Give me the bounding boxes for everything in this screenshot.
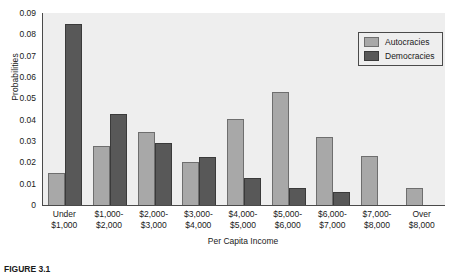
bar-dem xyxy=(199,157,216,205)
chart-legend: Autocracies Democracies xyxy=(358,32,443,66)
bar-auto xyxy=(316,137,333,205)
bar-auto xyxy=(227,119,244,205)
bar-dem xyxy=(333,192,350,205)
y-axis-tick-label: 0 xyxy=(6,201,36,209)
x-axis-tick-label: Over$8,000 xyxy=(399,209,444,231)
y-axis-tick-label: 0.04 xyxy=(6,116,36,124)
y-axis-tick-label: 0.09 xyxy=(6,9,36,17)
y-axis-tick-label: 0.08 xyxy=(6,30,36,38)
bar-auto xyxy=(361,156,378,205)
x-axis-tick-label: $6,000-$7,000 xyxy=(310,209,355,231)
y-axis-tick-label: 0.05 xyxy=(6,94,36,102)
plot-area: Autocracies Democracies xyxy=(42,13,445,206)
bar-auto xyxy=(93,146,110,205)
y-axis-tick-label: 0.06 xyxy=(6,73,36,81)
bar-auto xyxy=(48,173,65,205)
bar-dem xyxy=(110,114,127,205)
x-axis-tick-label: $1,000-$2,000 xyxy=(87,209,132,231)
bar-group xyxy=(88,13,133,205)
bar-group xyxy=(132,13,177,205)
bar-auto xyxy=(138,132,155,205)
legend-swatch-democracies xyxy=(364,51,379,61)
bar-group xyxy=(222,13,267,205)
x-axis-tick-label: $2,000-$3,000 xyxy=(131,209,176,231)
bar-auto xyxy=(272,92,289,205)
bar-group xyxy=(177,13,222,205)
bar-group xyxy=(43,13,88,205)
bar-dem xyxy=(244,178,261,205)
legend-label-autocracies: Autocracies xyxy=(385,37,429,47)
y-axis-tick-label: 0.01 xyxy=(6,180,36,188)
y-axis-tick-label: 0.02 xyxy=(6,158,36,166)
legend-swatch-autocracies xyxy=(364,37,379,47)
bar-group xyxy=(311,13,356,205)
x-axis-title: Per Capita Income xyxy=(42,236,444,246)
legend-item-autocracies: Autocracies xyxy=(364,37,435,47)
legend-label-democracies: Democracies xyxy=(385,51,435,61)
bar-group xyxy=(266,13,311,205)
x-axis-tick-label: $7,000-$8,000 xyxy=(355,209,400,231)
bar-auto xyxy=(406,188,423,205)
y-axis-tick-labels: 00.010.020.030.040.050.060.070.080.09 xyxy=(6,13,36,205)
figure-bar-chart: Probabilities 00.010.020.030.040.050.060… xyxy=(0,0,457,274)
bar-dem xyxy=(155,143,172,205)
bar-dem xyxy=(65,24,82,205)
x-axis-tick-labels: Under$1,000$1,000-$2,000$2,000-$3,000$3,… xyxy=(42,209,444,231)
y-axis-tick-label: 0.07 xyxy=(6,52,36,60)
figure-caption: FIGURE 3.1 xyxy=(4,264,50,274)
bar-dem xyxy=(289,188,306,205)
x-axis-tick-label: $5,000-$6,000 xyxy=(265,209,310,231)
x-axis-tick-label: $4,000-$5,000 xyxy=(221,209,266,231)
legend-item-democracies: Democracies xyxy=(364,51,435,61)
x-axis-tick-label: $3,000-$4,000 xyxy=(176,209,221,231)
x-axis-tick-label: Under$1,000 xyxy=(42,209,87,231)
y-axis-tick-label: 0.03 xyxy=(6,137,36,145)
bar-auto xyxy=(182,162,199,205)
